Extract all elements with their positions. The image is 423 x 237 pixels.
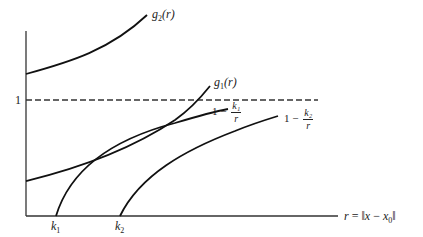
curve-g2 [26, 15, 147, 74]
curve-one-minus-k1-over-r [56, 109, 228, 216]
x-tick-k1-sub: 1 [56, 226, 60, 235]
fraction-k2-over-r: k₂r [303, 108, 313, 131]
x-tick-k2: k2 [115, 220, 124, 235]
x-axis-label-eq: = ‖ [349, 209, 365, 223]
label-g1-arg: (r) [224, 75, 237, 89]
x-tick-k2-sub: 2 [120, 226, 124, 235]
label-g2: g2(r) [152, 8, 175, 23]
fraction-k1-over-r: k₁r [231, 101, 241, 124]
fraction-denominator: r [231, 113, 241, 124]
label-curve-k1: 1 − k₁r [212, 101, 241, 124]
fraction-numerator: k₁ [231, 101, 241, 113]
label-curve-k2-prefix: 1 − [284, 112, 298, 124]
curve-one-minus-k2-over-r [120, 116, 278, 216]
x-axis-label-minus: − [370, 209, 383, 223]
label-g2-arg: (r) [162, 7, 175, 21]
fraction-numerator: k₂ [303, 108, 313, 120]
y-tick-one: 1 [15, 94, 21, 106]
x-axis-label: r = ‖x − x0‖ [344, 210, 396, 225]
label-curve-k1-prefix: 1 − [212, 105, 226, 117]
x-tick-k1: k1 [51, 220, 60, 235]
label-g1: g1(r) [214, 76, 237, 91]
fraction-denominator: r [303, 120, 313, 131]
label-curve-k2: 1 − k₂r [284, 108, 313, 131]
x-axis-label-close: ‖ [392, 209, 395, 223]
